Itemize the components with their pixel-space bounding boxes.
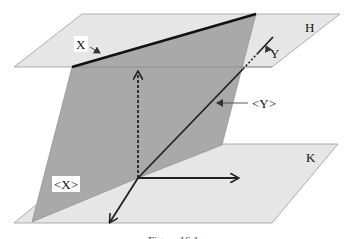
label-x-bracket: <X> — [54, 177, 78, 192]
label-plane-k: K — [306, 150, 316, 165]
label-x: X — [76, 37, 86, 52]
label-y-bracket: <Y> — [252, 96, 276, 111]
figure-caption: Figure 16.1 — [148, 234, 199, 239]
diagram-canvas: X Y <Y> <X> H K Figure 16.1 — [0, 0, 350, 239]
label-y: Y — [270, 46, 280, 61]
label-plane-h: H — [305, 20, 314, 35]
